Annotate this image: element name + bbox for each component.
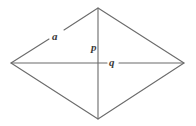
diagonal-label-p: p [91,42,97,53]
side-length-label-a: a [52,31,58,42]
lower-right-edge [98,63,184,119]
upper-right-edge [98,8,184,63]
diagonal-label-q: q [109,57,115,68]
rhombus-figure: a p q [0,0,196,126]
upper-left-edge-segment-outer [11,39,49,63]
upper-left-edge-segment-inner [64,8,98,30]
lower-left-edge [11,63,98,119]
rhombus-drawing [0,0,196,126]
